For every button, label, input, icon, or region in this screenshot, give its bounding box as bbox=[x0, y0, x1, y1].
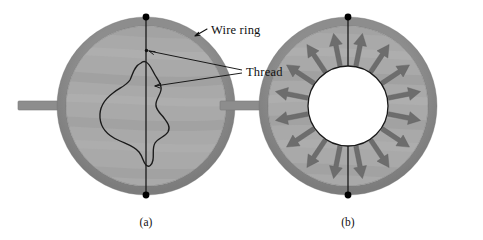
thread-anchor-dot-bottom-a bbox=[143, 192, 150, 199]
wire-ring-callout: Wire ring bbox=[195, 23, 261, 37]
caption-panel-a: (a) bbox=[140, 216, 153, 229]
wire-ring-label: Wire ring bbox=[211, 23, 261, 37]
thread-anchor-dot-top-a bbox=[143, 14, 150, 21]
soap-film-thread-figure: (a) (b) Wire rin bbox=[0, 0, 483, 240]
thread-anchor-dot-bottom-b bbox=[345, 192, 352, 199]
thread-anchor-dot-top-b bbox=[345, 14, 352, 21]
thread-anchor-point-on-vertical bbox=[145, 49, 148, 52]
panel-b-group: (b) bbox=[220, 14, 437, 229]
caption-panel-b: (b) bbox=[341, 216, 355, 229]
thread-label: Thread bbox=[246, 65, 283, 79]
panel-a-group: (a) bbox=[18, 14, 235, 229]
figure-root: (a) (b) Wire rin bbox=[0, 0, 483, 240]
